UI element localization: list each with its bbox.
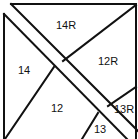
- label-14: 14: [18, 65, 30, 76]
- divider-14-12: [5, 67, 54, 139]
- label-13: 13: [94, 124, 106, 135]
- label-13R: 13R: [114, 104, 134, 115]
- label-12: 12: [51, 103, 63, 114]
- label-14R: 14R: [56, 20, 76, 31]
- label-12R: 12R: [98, 56, 118, 67]
- band-lower-edge: [4, 14, 127, 139]
- divider-14R-12R: [63, 5, 136, 61]
